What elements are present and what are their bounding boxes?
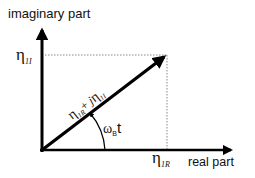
y-axis-label: imaginary part xyxy=(8,6,91,21)
angle-label: ωBt xyxy=(103,119,122,137)
x-axis-label: real part xyxy=(188,155,234,169)
imag-value-label: η1I xyxy=(16,45,32,66)
phasor-diagram: imaginary part real part η1I η1R η1R+ jη… xyxy=(0,0,255,178)
diagram-svg: imaginary part real part η1I η1R η1R+ jη… xyxy=(0,0,255,178)
